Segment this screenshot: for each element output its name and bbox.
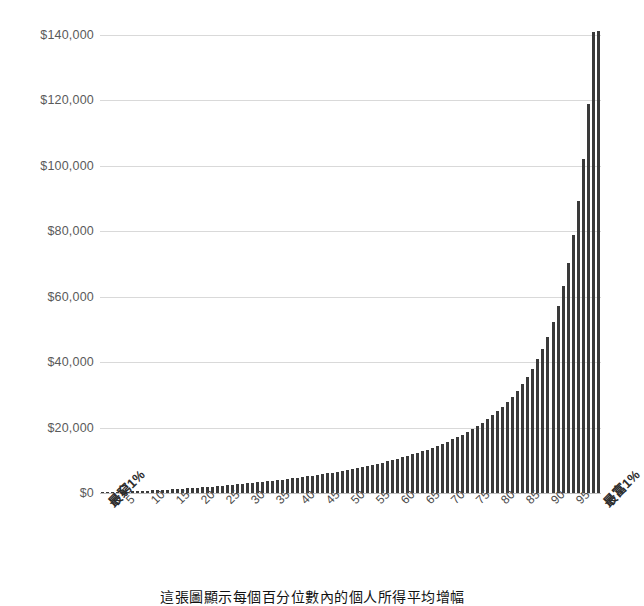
bar bbox=[371, 465, 374, 493]
bar bbox=[446, 442, 449, 493]
bar bbox=[526, 377, 529, 493]
chart-caption: 這張圖顯示每個百分位數內的個人所得平均增幅 bbox=[0, 586, 625, 606]
bar bbox=[536, 359, 539, 493]
bar-series bbox=[100, 20, 601, 493]
bar bbox=[546, 337, 549, 493]
y-axis-tick-label: $140,000 bbox=[8, 28, 94, 42]
bar bbox=[516, 391, 519, 493]
bar bbox=[386, 461, 389, 493]
bar bbox=[486, 419, 489, 493]
y-axis-tick-label: $0 bbox=[8, 486, 94, 500]
bar bbox=[506, 402, 509, 493]
y-axis-tick-label: $120,000 bbox=[8, 93, 94, 107]
bar bbox=[567, 263, 570, 493]
plot-area bbox=[100, 20, 601, 493]
bar bbox=[266, 481, 269, 493]
bar bbox=[441, 444, 444, 493]
bar bbox=[476, 426, 479, 493]
bar bbox=[587, 104, 590, 493]
bar bbox=[241, 484, 244, 493]
bar bbox=[592, 32, 595, 493]
bar bbox=[582, 159, 585, 494]
y-axis-tick-label: $20,000 bbox=[8, 421, 94, 435]
bar bbox=[296, 478, 299, 493]
bar bbox=[521, 384, 524, 493]
bar bbox=[491, 415, 494, 493]
bar bbox=[411, 454, 414, 493]
bar bbox=[471, 429, 474, 493]
bar bbox=[436, 446, 439, 493]
bar bbox=[562, 286, 565, 493]
bar bbox=[246, 483, 249, 493]
bar bbox=[461, 435, 464, 493]
bar bbox=[361, 467, 364, 493]
bar bbox=[541, 349, 544, 493]
y-axis-tick-label: $100,000 bbox=[8, 159, 94, 173]
bar bbox=[426, 450, 429, 493]
bar bbox=[572, 235, 575, 493]
bar bbox=[557, 306, 560, 493]
bar bbox=[366, 466, 369, 493]
bar bbox=[481, 423, 484, 493]
y-axis-tick-label: $80,000 bbox=[8, 224, 94, 238]
bar bbox=[401, 457, 404, 493]
bar bbox=[466, 432, 469, 493]
bar bbox=[346, 470, 349, 493]
bar bbox=[531, 369, 534, 493]
bar bbox=[577, 201, 580, 493]
bar bbox=[396, 459, 399, 493]
y-axis-tick-label: $60,000 bbox=[8, 290, 94, 304]
x-axis-tick-label: 最富1% bbox=[598, 465, 644, 511]
bar bbox=[391, 460, 394, 493]
y-axis-tick-label: $40,000 bbox=[8, 355, 94, 369]
bar bbox=[316, 475, 319, 493]
bar bbox=[216, 486, 219, 493]
bar bbox=[552, 322, 555, 493]
bar bbox=[496, 411, 499, 493]
bar bbox=[421, 451, 424, 493]
bar bbox=[511, 397, 514, 493]
bar bbox=[271, 481, 274, 493]
x-axis-tick-label: 5 bbox=[123, 492, 138, 507]
bar bbox=[341, 471, 344, 493]
bar bbox=[597, 31, 600, 493]
bar bbox=[501, 407, 504, 493]
bar bbox=[291, 478, 294, 493]
bar bbox=[416, 453, 419, 493]
bar bbox=[221, 486, 224, 493]
bar bbox=[456, 437, 459, 493]
bar bbox=[451, 439, 454, 493]
bar bbox=[321, 474, 324, 493]
bar bbox=[376, 464, 379, 493]
